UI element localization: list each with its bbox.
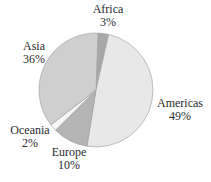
label-europe-pct: 10%	[47, 159, 91, 172]
label-africa: Africa 3%	[88, 3, 128, 29]
label-americas: Americas 49%	[150, 97, 210, 123]
label-asia-pct: 36%	[14, 53, 54, 66]
label-asia: Asia 36%	[14, 40, 54, 66]
label-oceania-pct: 2%	[8, 137, 52, 150]
label-oceania: Oceania 2%	[8, 124, 52, 150]
label-europe: Europe 10%	[47, 146, 91, 172]
label-americas-pct: 49%	[150, 110, 210, 123]
label-africa-pct: 3%	[88, 16, 128, 29]
